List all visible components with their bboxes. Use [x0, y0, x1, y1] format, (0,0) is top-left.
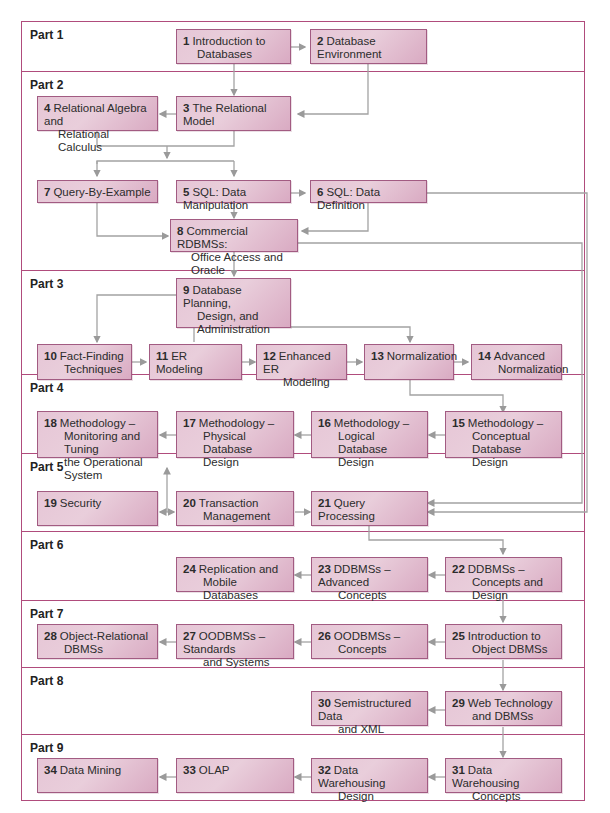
part-1-section: Part 1: [21, 21, 585, 72]
chapter-title-cont: Design: [183, 456, 288, 469]
chapter-title: Methodology –: [199, 417, 274, 429]
chapter-number: 30: [318, 697, 331, 709]
chapter-25-box[interactable]: 25Introduction to Object DBMSs: [445, 624, 562, 659]
chapter-title-cont: Concepts: [318, 643, 422, 656]
chapter-9-box[interactable]: 9Database Planning, Design, and Administ…: [176, 278, 291, 328]
chapter-28-box[interactable]: 28Object-Relational DBMSs: [37, 624, 158, 659]
chapter-11-box[interactable]: 11ER Modeling: [149, 344, 242, 380]
chapter-title: Methodology –: [334, 417, 409, 429]
chapter-18-box[interactable]: 18Methodology – Monitoring and Tuning th…: [37, 411, 158, 458]
chapter-number: 13: [371, 350, 384, 362]
chapter-number: 33: [183, 764, 196, 776]
chapter-title-cont: Conceptual Database: [452, 430, 556, 456]
chapter-title-cont: Monitoring and Tuning: [44, 430, 152, 456]
chapter-title: Database Environment: [317, 35, 382, 60]
chapter-number: 28: [44, 630, 57, 642]
chapter-1-box[interactable]: 1Introduction to Databases: [176, 29, 291, 64]
chapter-title-cont: Mobile Databases: [183, 576, 288, 602]
chapter-4-box[interactable]: 4Relational Algebra and Relational Calcu…: [37, 96, 158, 131]
part-label: Part 8: [30, 674, 63, 688]
chapter-number: 6: [317, 186, 323, 198]
chapter-5-box[interactable]: 5SQL: Data Manipulation: [176, 180, 291, 203]
chapter-24-box[interactable]: 24Replication and Mobile Databases: [176, 557, 294, 592]
chapter-title-cont: the Operational System: [44, 456, 152, 482]
chapter-33-box[interactable]: 33OLAP: [176, 758, 294, 793]
chapter-14-box[interactable]: 14Advanced Normalization: [471, 344, 562, 380]
chapter-number: 4: [44, 102, 50, 114]
chapter-title: Object-Relational: [60, 630, 148, 642]
chapter-title-cont: Design, and: [183, 310, 285, 323]
chapter-21-box[interactable]: 21Query Processing: [311, 491, 428, 526]
chapter-title-cont: Design: [452, 456, 556, 469]
chapter-title-cont: and XML: [318, 723, 422, 736]
chapter-title: Web Technology: [468, 697, 553, 709]
chapter-3-box[interactable]: 3The Relational Model: [176, 96, 291, 131]
chapter-17-box[interactable]: 17Methodology – Physical Database Design: [176, 411, 294, 458]
chapter-number: 12: [263, 350, 276, 362]
chapter-title: Introduction to: [468, 630, 541, 642]
chapter-title-cont: Office Access and Oracle: [177, 251, 292, 277]
chapter-number: 16: [318, 417, 331, 429]
chapter-number: 2: [317, 35, 323, 47]
chapter-title-cont: Design: [318, 456, 422, 469]
chapter-title: Methodology –: [468, 417, 543, 429]
chapter-number: 3: [183, 102, 189, 114]
chapter-26-box[interactable]: 26OODBMSs – Concepts: [311, 624, 428, 659]
part-label: Part 3: [30, 277, 63, 291]
chapter-32-box[interactable]: 32Data Warehousing Design: [311, 758, 428, 793]
chapter-30-box[interactable]: 30Semistructured Data and XML: [311, 691, 428, 726]
chapter-number: 27: [183, 630, 196, 642]
chapter-number: 32: [318, 764, 331, 776]
chapter-title: Normalization: [387, 350, 457, 362]
chapter-number: 9: [183, 284, 189, 296]
chapter-8-box[interactable]: 8Commercial RDBMSs: Office Access and Or…: [170, 219, 298, 252]
chapter-number: 10: [44, 350, 57, 362]
chapter-number: 26: [318, 630, 331, 642]
chapter-title-cont: Concepts: [318, 589, 422, 602]
chapter-title: Transaction: [199, 497, 259, 509]
chapter-number: 22: [452, 563, 465, 575]
chapter-title: Introduction to: [192, 35, 265, 47]
chapter-title: Query-By-Example: [53, 186, 150, 198]
chapter-7-box[interactable]: 7Query-By-Example: [37, 180, 158, 203]
part-label: Part 2: [30, 78, 63, 92]
chapter-number: 8: [177, 225, 183, 237]
chapter-10-box[interactable]: 10Fact-Finding Techniques: [37, 344, 132, 380]
part-label: Part 9: [30, 741, 63, 755]
chapter-22-box[interactable]: 22DDBMSs – Concepts and Design: [445, 557, 562, 592]
chapter-title: Commercial RDBMSs:: [177, 225, 248, 250]
chapter-number: 34: [44, 764, 57, 776]
chapter-27-box[interactable]: 27OODBMSs – Standards and Systems: [176, 624, 294, 659]
chapter-number: 14: [478, 350, 491, 362]
chapter-19-box[interactable]: 19Security: [37, 491, 158, 526]
chapter-title-cont: Design: [318, 790, 422, 803]
chapter-13-box[interactable]: 13Normalization: [364, 344, 454, 380]
part-label: Part 6: [30, 538, 63, 552]
chapter-number: 29: [452, 697, 465, 709]
chapter-title-cont: Management: [183, 510, 288, 523]
chapter-title: The Relational Model: [183, 102, 267, 127]
chapter-title-cont: Physical Database: [183, 430, 288, 456]
chapter-23-box[interactable]: 23DDBMSs – Advanced Concepts: [311, 557, 428, 592]
chapter-number: 17: [183, 417, 196, 429]
chapter-title: OODBMSs –: [334, 630, 400, 642]
chapter-34-box[interactable]: 34Data Mining: [37, 758, 158, 793]
chapter-29-box[interactable]: 29Web Technology and DBMSs: [445, 691, 562, 726]
chapter-title-cont: and Systems: [183, 656, 288, 669]
chapter-6-box[interactable]: 6SQL: Data Definition: [310, 180, 427, 203]
chapter-15-box[interactable]: 15Methodology – Conceptual Database Desi…: [445, 411, 562, 458]
chapter-title: Fact-Finding: [60, 350, 124, 362]
chapter-20-box[interactable]: 20Transaction Management: [176, 491, 294, 526]
part-label: Part 7: [30, 607, 63, 621]
chapter-2-box[interactable]: 2Database Environment: [310, 29, 427, 64]
chapter-number: 23: [318, 563, 331, 575]
chapter-title-cont: Concepts and Design: [452, 576, 556, 602]
chapter-number: 1: [183, 35, 189, 47]
chapter-12-box[interactable]: 12Enhanced ER Modeling: [256, 344, 347, 380]
chapter-16-box[interactable]: 16Methodology – Logical Database Design: [311, 411, 428, 458]
chapter-31-box[interactable]: 31Data Warehousing Concepts: [445, 758, 562, 793]
part-label: Part 1: [30, 28, 63, 42]
chapter-number: 11: [156, 350, 168, 362]
chapter-number: 15: [452, 417, 465, 429]
chapter-title-cont: Logical Database: [318, 430, 422, 456]
